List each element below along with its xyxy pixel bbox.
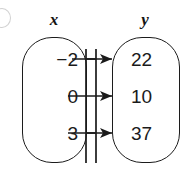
mapping-arrows-group: [0, 0, 189, 170]
mapping-arrow-1: [68, 91, 112, 101]
mapping-diagram-figure: x y −2 0 3 22 10 37: [0, 0, 189, 170]
